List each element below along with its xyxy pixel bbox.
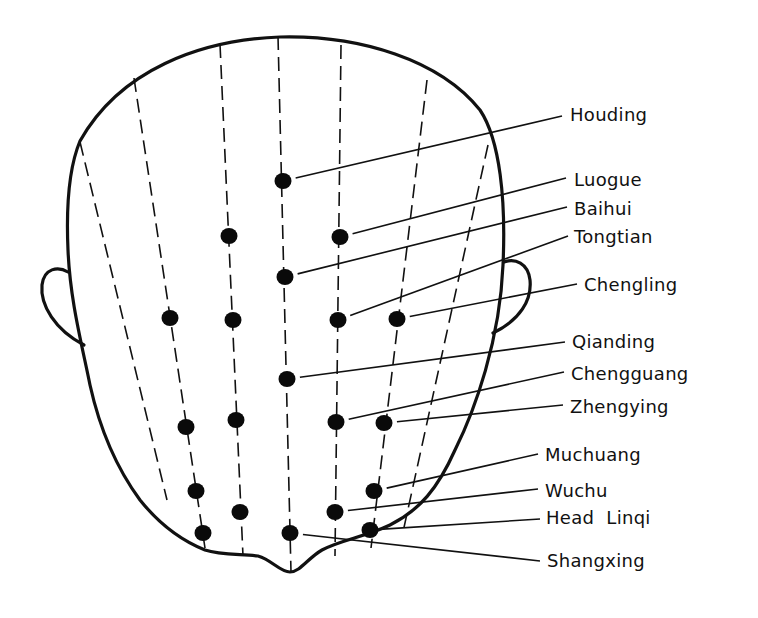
acupoint-chengling	[389, 311, 406, 327]
leader-line-muchuang	[387, 454, 538, 488]
acupoint-bilateral-7	[195, 525, 212, 541]
acupoint-shangxing	[282, 525, 299, 541]
acupoint-chengguang	[328, 414, 345, 430]
leader-line-tongtian	[350, 236, 568, 316]
leader-lines	[296, 116, 577, 561]
acupoints	[162, 173, 406, 541]
leader-line-luogue	[353, 178, 566, 234]
acupoint-luogue	[332, 229, 349, 245]
label-muchuang: Muchuang	[545, 444, 641, 465]
acupoint-head_linqi	[362, 522, 379, 538]
label-tongtian: Tongtian	[573, 226, 653, 247]
point-labels: HoudingLuogueBaihuiTongtianChenglingQian…	[545, 104, 689, 571]
label-shangxing: Shangxing	[547, 550, 645, 571]
acupoint-bilateral-3	[228, 412, 245, 428]
acupoint-qianding	[279, 371, 296, 387]
meridian-right-3	[335, 45, 341, 556]
label-qianding: Qianding	[572, 331, 655, 352]
acupoint-bilateral-0	[221, 228, 238, 244]
label-baihui: Baihui	[574, 198, 632, 219]
meridian-left-3	[220, 44, 243, 556]
leader-line-shangxing	[303, 534, 540, 561]
acupoint-baihui	[277, 269, 294, 285]
leader-line-head_linqi	[383, 519, 540, 529]
acupoint-zhengying	[376, 415, 393, 431]
label-wuchu: Wuchu	[545, 480, 608, 501]
acupoint-bilateral-6	[232, 504, 249, 520]
meridian-governor	[278, 36, 291, 572]
label-head_linqi: Head Linqi	[546, 507, 651, 528]
acupoint-bilateral-2	[162, 310, 179, 326]
label-chengling: Chengling	[584, 274, 677, 295]
acupoint-muchuang	[366, 483, 383, 499]
meridian-right-outer	[403, 145, 488, 532]
meridian-lines	[80, 36, 488, 572]
acupoint-bilateral-1	[225, 312, 242, 328]
label-zhengying: Zhengying	[570, 396, 669, 417]
acupoint-wuchu	[327, 504, 344, 520]
head-outline	[68, 37, 504, 572]
head-acupoint-diagram: HoudingLuogueBaihuiTongtianChenglingQian…	[0, 0, 758, 618]
leader-line-houding	[296, 116, 562, 178]
leader-line-chengling	[410, 284, 577, 317]
leader-line-chengguang	[349, 372, 564, 419]
label-chengguang: Chengguang	[571, 363, 689, 384]
leader-line-zhengying	[397, 405, 563, 422]
acupoint-bilateral-4	[178, 419, 195, 435]
leader-line-qianding	[300, 342, 565, 377]
acupoint-tongtian	[330, 312, 347, 328]
acupoint-houding	[275, 173, 292, 189]
meridian-left-outer	[80, 142, 167, 500]
acupoint-bilateral-5	[188, 483, 205, 499]
label-houding: Houding	[570, 104, 647, 125]
label-luogue: Luogue	[574, 169, 642, 190]
